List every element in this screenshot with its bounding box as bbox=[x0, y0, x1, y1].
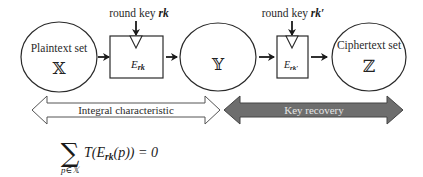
integral-property-formula: ∑ p∈𝕏 T(Erk(p)) = 0 bbox=[60, 138, 158, 175]
summation-symbol: ∑ bbox=[61, 138, 80, 168]
round-function-box-1: Erk bbox=[110, 36, 163, 78]
plaintext-set-symbol: 𝕏 bbox=[52, 58, 66, 78]
integral-characteristic-arrow: Integral characteristic bbox=[32, 96, 220, 124]
plaintext-set-node: Plaintext set 𝕏 bbox=[21, 22, 97, 92]
ciphertext-set-symbol: ℤ bbox=[363, 56, 375, 76]
integral-characteristic-label: Integral characteristic bbox=[78, 104, 174, 116]
formula-body: T(Erk(p)) = 0 bbox=[84, 145, 158, 162]
integral-attack-diagram: Plaintext set 𝕏 round key rk Erk 𝕐 round… bbox=[0, 0, 423, 177]
key-recovery-arrow: Key recovery bbox=[224, 96, 403, 124]
round-key-label-1: round key rk bbox=[109, 7, 169, 20]
key-recovery-label: Key recovery bbox=[284, 104, 344, 116]
intermediate-set-symbol: 𝕐 bbox=[211, 54, 225, 74]
round-key-label-2: round key rk′ bbox=[262, 7, 325, 20]
plaintext-set-label: Plaintext set bbox=[31, 42, 88, 54]
intermediate-set-node: 𝕐 bbox=[180, 23, 256, 91]
ciphertext-set-label: Ciphertext set bbox=[337, 39, 402, 52]
ciphertext-set-node: Ciphertext set ℤ bbox=[332, 23, 406, 91]
round-function-box-2: Erk′ bbox=[277, 36, 308, 78]
summation-subscript: p∈𝕏 bbox=[60, 165, 80, 175]
